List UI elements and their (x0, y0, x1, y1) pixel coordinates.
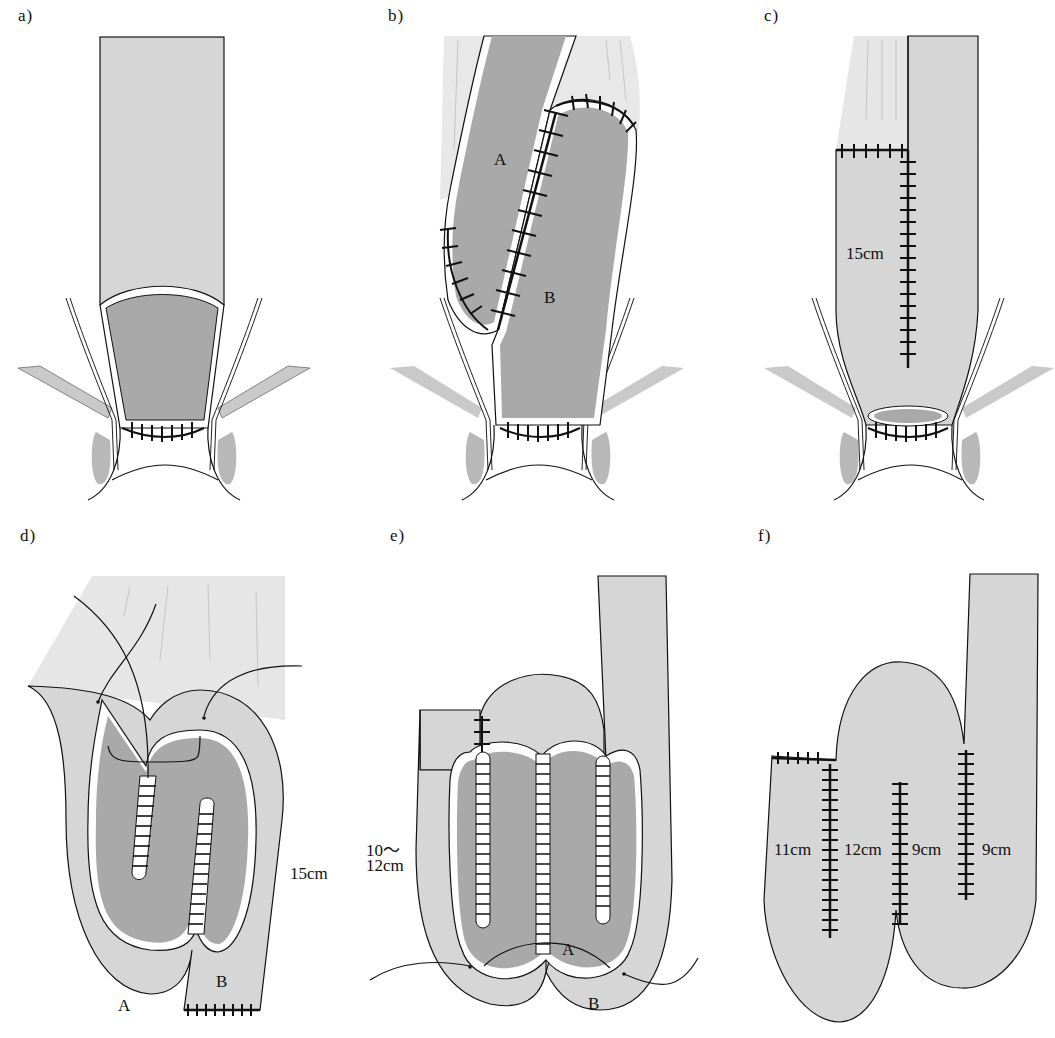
length-label-12cm: 12cm (844, 840, 882, 860)
limb-label-b: B (216, 972, 227, 992)
limb-label-a: A (118, 996, 130, 1016)
length-label-15cm: 15cm (290, 864, 328, 884)
panel-e: e) 10～ 1 (360, 520, 710, 1038)
panel-f: f) 11cm 12cm 9cm 9cm (740, 520, 1055, 1038)
limb-label-b: B (588, 994, 599, 1014)
panel-b-drawing (380, 0, 700, 520)
length-label-12cm: 12cm (366, 856, 404, 876)
panel-a-drawing (0, 0, 350, 520)
panel-d: d) (0, 520, 350, 1038)
length-label-11cm: 11cm (774, 840, 811, 860)
panel-a: a) (0, 0, 350, 520)
limb-label-a: A (562, 940, 574, 960)
panel-f-drawing (740, 520, 1055, 1038)
limb-label-a: A (494, 150, 506, 170)
panel-b: b) (380, 0, 700, 520)
length-label-15cm: 15cm (846, 244, 884, 264)
panel-c-drawing (750, 0, 1055, 520)
limb-label-b: B (544, 288, 555, 308)
panel-d-drawing (0, 520, 350, 1038)
length-label-9cm-a: 9cm (912, 840, 941, 860)
length-label-9cm-b: 9cm (982, 840, 1011, 860)
panel-e-drawing (360, 520, 710, 1038)
panel-c: c) (750, 0, 1055, 520)
